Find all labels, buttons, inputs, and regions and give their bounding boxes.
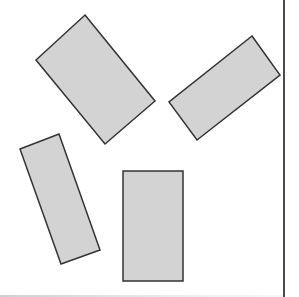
rotated-rectangle-bottom-left	[20, 134, 100, 264]
upright-rectangle-bottom-center	[123, 171, 183, 281]
shapes-canvas	[0, 0, 299, 297]
right-border-line	[283, 0, 285, 297]
rotated-rectangle-top-left	[36, 15, 155, 144]
rotated-rectangle-top-right	[169, 36, 280, 140]
